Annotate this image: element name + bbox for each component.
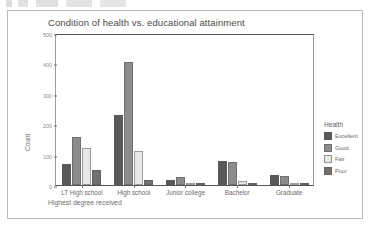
bar[interactable] xyxy=(270,175,279,185)
chart-legend: Health ExcellentGoodFairPoor xyxy=(324,121,372,178)
x-axis-tick-label: High school xyxy=(117,189,150,196)
bar[interactable] xyxy=(176,177,185,185)
x-axis-tick-label: Junior college xyxy=(166,189,205,196)
legend-item[interactable]: Fair xyxy=(324,155,372,163)
legend-item[interactable]: Poor xyxy=(324,167,372,175)
y-axis-tick-label: 500 xyxy=(43,32,52,38)
bar-group: Junior college xyxy=(160,35,212,185)
legend-swatch xyxy=(324,132,332,140)
legend-swatch xyxy=(324,167,332,175)
bar[interactable] xyxy=(72,137,81,185)
cropped-header-artifact xyxy=(6,0,156,7)
chart-title: Condition of health vs. educational atta… xyxy=(48,17,245,28)
legend-item-list: ExcellentGoodFairPoor xyxy=(324,132,372,175)
bar[interactable] xyxy=(92,170,101,185)
legend-label: Good xyxy=(335,145,349,151)
bar[interactable] xyxy=(186,183,195,185)
figure-panel: Condition of health vs. educational atta… xyxy=(7,10,363,219)
y-axis-tick-label: 100 xyxy=(43,154,52,160)
bar[interactable] xyxy=(238,181,247,185)
bar-group: Bachelor xyxy=(211,35,263,185)
plot-area: 0100200300400500LT High schoolHigh schoo… xyxy=(55,34,314,186)
legend-label: Fair xyxy=(335,156,345,162)
bar-group: High school xyxy=(108,35,160,185)
x-axis-tick-mark xyxy=(134,185,135,188)
bar[interactable] xyxy=(280,176,289,185)
bar[interactable] xyxy=(166,180,175,185)
bar[interactable] xyxy=(228,162,237,185)
y-axis-tick-label: 200 xyxy=(43,123,52,129)
y-axis-tick-label: 0 xyxy=(49,184,52,190)
x-axis-tick-mark xyxy=(185,185,186,188)
legend-label: Excellent xyxy=(335,133,358,139)
bar[interactable] xyxy=(248,183,257,185)
bar[interactable] xyxy=(144,180,153,185)
legend-swatch xyxy=(324,155,332,163)
bar[interactable] xyxy=(218,161,227,185)
bar-group: Graduate xyxy=(263,35,315,185)
y-axis-tick-label: 400 xyxy=(43,62,52,68)
bar[interactable] xyxy=(114,115,123,185)
bar[interactable] xyxy=(290,183,299,185)
x-axis-tick-mark xyxy=(237,185,238,188)
legend-item[interactable]: Excellent xyxy=(324,132,372,140)
chart-screenshot: Condition of health vs. educational atta… xyxy=(0,0,372,226)
x-axis-tick-label: LT High school xyxy=(61,189,102,196)
x-axis-tick-label: Graduate xyxy=(276,189,302,196)
bar[interactable] xyxy=(300,183,309,185)
x-axis-tick-label: Bachelor xyxy=(225,189,250,196)
bar[interactable] xyxy=(124,62,133,185)
bar-group: LT High school xyxy=(56,35,108,185)
bar[interactable] xyxy=(82,148,91,185)
y-axis-tick-mark xyxy=(54,187,57,188)
x-axis-tick-mark xyxy=(82,185,83,188)
x-axis-title: Highest degree received xyxy=(48,199,122,206)
legend-item[interactable]: Good xyxy=(324,144,372,152)
legend-swatch xyxy=(324,144,332,152)
bar[interactable] xyxy=(62,164,71,185)
x-axis-tick-mark xyxy=(289,185,290,188)
y-axis-title: Count xyxy=(24,134,31,151)
y-axis-tick-label: 300 xyxy=(43,93,52,99)
legend-title: Health xyxy=(324,121,372,128)
bar[interactable] xyxy=(134,151,143,185)
bar[interactable] xyxy=(196,183,205,185)
legend-label: Poor xyxy=(335,168,347,174)
